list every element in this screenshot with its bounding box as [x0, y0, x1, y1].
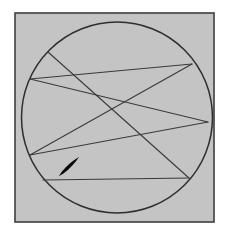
paper-grain-overlay: [15, 13, 214, 222]
billiard-diagram-svg: [0, 0, 228, 240]
figure-root: [0, 0, 228, 240]
